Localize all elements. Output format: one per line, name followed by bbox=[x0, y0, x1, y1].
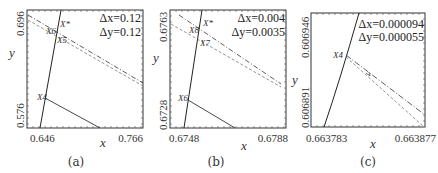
trajectory-1-c bbox=[346, 55, 425, 115]
trajectory-2-c bbox=[346, 57, 423, 126]
delta-x-b: Δx=0.004 bbox=[238, 11, 285, 25]
chart-a: X* X6 X5 X4 Δx=0.12 Δy=0.12 0.646 0.766 … bbox=[0, 0, 150, 173]
y-max-label-b: 0.6763 bbox=[157, 11, 169, 42]
point-label-x6-a: X6 bbox=[45, 26, 56, 36]
delta-y-a: Δy=0.12 bbox=[100, 25, 141, 39]
stable-manifold-curve-c bbox=[324, 13, 359, 127]
x-axis-label-c: x bbox=[369, 136, 376, 151]
x-axis-label-a: x bbox=[99, 135, 106, 150]
y-min-label-a: 0.576 bbox=[14, 103, 26, 128]
x-max-label-b: 0.6788 bbox=[258, 132, 289, 144]
delta-x-c: Δx=0.000094 bbox=[359, 17, 424, 31]
delta-x-a: Δx=0.12 bbox=[100, 11, 141, 25]
panel-a: X* X6 X5 X4 Δx=0.12 Δy=0.12 0.646 0.766 … bbox=[0, 0, 150, 173]
y-min-label-c: 0.606891 bbox=[299, 87, 311, 128]
x-axis-label-b: x bbox=[240, 138, 247, 153]
x-min-label-b: 0.6748 bbox=[169, 132, 200, 144]
y-axis-label-a: y bbox=[7, 45, 15, 60]
point-label-x5-a: X5 bbox=[56, 35, 67, 45]
point-label-x6-b: X6 bbox=[177, 93, 188, 103]
lower-trajectory-a bbox=[45, 98, 100, 128]
delta-y-b: Δy=0.0035 bbox=[232, 25, 285, 39]
panel-b: X* X8 X7 X6 Δx=0.004 Δy=0.0035 0.6748 0.… bbox=[145, 0, 295, 173]
chart-c: X4 Δx=0.000094 Δy=0.000055 0.663783 0.66… bbox=[290, 0, 438, 173]
point-label-x7-b: X7 bbox=[199, 38, 210, 48]
y-axis-label-b: y bbox=[151, 50, 159, 65]
point-label-x8-b: X8 bbox=[188, 25, 199, 35]
panel-c: X4 Δx=0.000094 Δy=0.000055 0.663783 0.66… bbox=[290, 0, 438, 173]
point-label-x4-a: X4 bbox=[36, 92, 47, 102]
x-min-label-c: 0.663783 bbox=[306, 132, 348, 144]
point-label-xstar-a: X* bbox=[59, 19, 70, 29]
y-axis-label-c: y bbox=[290, 72, 298, 87]
caption-b: (b) bbox=[207, 155, 224, 169]
point-label-xstar-b: X* bbox=[202, 18, 213, 28]
chart-b: X* X8 X7 X6 Δx=0.004 Δy=0.0035 0.6748 0.… bbox=[145, 0, 295, 173]
lower-trajectory-b bbox=[188, 100, 235, 128]
delta-y-c: Δy=0.000055 bbox=[359, 30, 424, 44]
x-max-label-a: 0.766 bbox=[118, 132, 143, 144]
y-max-label-c: 0.606946 bbox=[299, 16, 311, 58]
x-max-label-c: 0.663877 bbox=[395, 132, 437, 144]
y-max-label-a: 0.696 bbox=[14, 11, 26, 36]
y-min-label-b: 0.6728 bbox=[157, 99, 169, 130]
caption-c: (c) bbox=[360, 155, 376, 169]
point-label-x4-c: X4 bbox=[332, 50, 343, 60]
x-min-label-a: 0.646 bbox=[30, 132, 55, 144]
caption-a: (a) bbox=[68, 155, 85, 169]
